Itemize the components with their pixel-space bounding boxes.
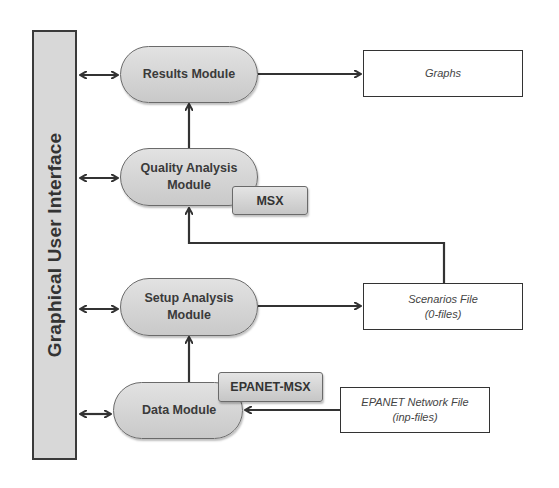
graphs-file: Graphs [363, 50, 523, 97]
data-module-label: Data Module [142, 402, 216, 419]
graphs-label: Graphs [425, 66, 461, 81]
quality-module-line2: Module [167, 177, 211, 194]
epanet-msx-tag: EPANET-MSX [218, 372, 323, 402]
setup-module-line1: Setup Analysis [144, 290, 233, 307]
epanet-msx-label: EPANET-MSX [230, 380, 310, 394]
scenarios-line1: Scenarios File [408, 292, 478, 307]
epanet-network-file: EPANET Network File (inp-files) [340, 387, 490, 433]
gui-label: Graphical User Interface [44, 133, 66, 357]
results-module-label: Results Module [143, 66, 235, 83]
epanet-file-line2: (inp-files) [392, 410, 437, 425]
msx-tag: MSX [232, 186, 308, 215]
msx-label: MSX [256, 194, 283, 208]
scenarios-line2: (0-files) [425, 307, 462, 322]
quality-module-line1: Quality Analysis [141, 160, 238, 177]
setup-analysis-module: Setup Analysis Module [120, 278, 258, 336]
scenarios-file: Scenarios File (0-files) [363, 283, 523, 330]
results-module: Results Module [120, 46, 258, 103]
graphical-user-interface-block: Graphical User Interface [32, 30, 77, 460]
epanet-file-line1: EPANET Network File [361, 395, 468, 410]
setup-module-line2: Module [167, 307, 211, 324]
